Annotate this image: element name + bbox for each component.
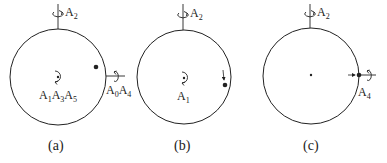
caption-a: (a) (48, 138, 64, 154)
top-label-b: A2 (190, 6, 203, 22)
top-label-c: A2 (317, 5, 330, 21)
center-label-a: A1A3A5 (39, 88, 77, 104)
panel-b: A2 A1 (b) (137, 4, 231, 154)
point-dot (94, 65, 99, 70)
center-rotation-icon (55, 71, 61, 85)
side-rotation-icon (106, 71, 125, 82)
caption-c: (c) (303, 138, 319, 154)
caption-b: (b) (174, 138, 191, 154)
motion-arrow (223, 70, 224, 80)
panel-c: A2 A4 (c) (263, 4, 376, 154)
top-rotation-icon (178, 4, 188, 30)
top-rotation-icon (53, 4, 63, 29)
side-label-a: A0A4 (106, 83, 131, 99)
center-rotation-icon (182, 72, 188, 86)
center-dot (310, 74, 312, 76)
point-dot (223, 83, 228, 88)
center-label-b: A1 (177, 89, 190, 105)
side-label-c: A4 (358, 85, 371, 101)
top-rotation-icon (305, 4, 315, 28)
symmetry-diagram: A2 A1A3A5 A0A4 (a) A2 (0, 0, 387, 163)
side-rotation-icon (359, 70, 376, 81)
top-label-a: A2 (65, 5, 78, 21)
panel-a: A2 A1A3A5 A0A4 (a) (10, 4, 131, 154)
